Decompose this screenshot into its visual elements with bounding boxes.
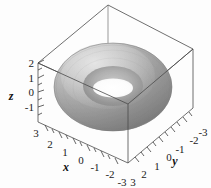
z-tick-label: 1 [29,72,35,84]
torus-3d-plot: 2 1 0 -1 3 2 1 0 -1 -2 -3 3 2 1 0 -1 -2 … [0,0,211,188]
z-tick-label: 0 [29,86,35,98]
x-tick-label: 0 [78,154,84,166]
y-tick-label: -3 [198,126,208,138]
x-tick-label: -1 [90,161,99,173]
x-tick-label: -2 [105,168,114,180]
box-top-edge-back-right [108,5,193,49]
y-tick-label: 3 [130,176,136,188]
x-axis-label: x [62,160,69,174]
x-tick-label: 2 [47,138,53,150]
y-tick-label: 1 [154,160,160,172]
z-axis-tick-labels: 2 1 0 -1 [25,57,35,113]
x-axis-tick-labels: 3 2 1 0 -1 -2 -3 [33,127,127,188]
z-axis-label: z [8,89,14,103]
z-tick-label: 2 [29,57,35,69]
torus-surface [54,43,172,131]
y-tick-label: 2 [141,168,147,180]
x-tick-label: 1 [62,146,68,158]
z-axis-tick-marks [38,60,44,115]
y-tick-label: -2 [189,134,198,146]
x-tick-label: 3 [33,127,39,139]
x-tick-label: -3 [117,176,127,188]
y-axis-tick-labels: 3 2 1 0 -1 -2 -3 [130,126,208,188]
torus-hole [93,79,133,98]
z-tick-label: -1 [25,101,34,113]
y-axis-label: y [170,154,178,168]
plot-canvas: 2 1 0 -1 3 2 1 0 -1 -2 -3 3 2 1 0 -1 -2 … [0,0,211,188]
